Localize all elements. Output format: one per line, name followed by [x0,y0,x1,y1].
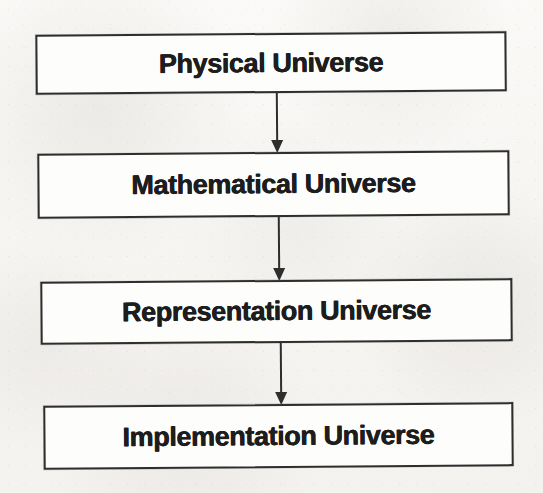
node-physical-universe[interactable]: Physical Universe [35,31,506,95]
arrow-shaft [276,93,279,141]
arrow-mathematical-to-representation [272,217,287,281]
node-label: Physical Universe [159,47,384,80]
arrow-physical-to-mathematical [270,93,284,153]
node-implementation-universe[interactable]: Implementation Universe [43,402,513,470]
scanned-page: Physical Universe Mathematical Universe … [0,0,543,493]
node-label: Implementation Universe [122,419,434,452]
flowchart: Physical Universe Mathematical Universe … [0,0,543,493]
node-mathematical-universe[interactable]: Mathematical Universe [37,150,509,219]
node-representation-universe[interactable]: Representation Universe [40,278,512,345]
node-label: Mathematical Universe [131,168,415,201]
arrow-shaft [280,343,283,393]
arrow-representation-to-implementation [274,343,288,405]
arrow-shaft [278,217,281,269]
node-label: Representation Universe [122,295,431,328]
